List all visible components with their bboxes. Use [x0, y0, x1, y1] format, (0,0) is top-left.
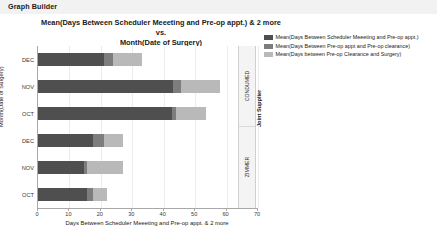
bar-segment-series-3[interactable] — [176, 107, 206, 120]
bar-segment-series-3[interactable] — [104, 134, 123, 147]
chart-title: Mean(Days Between Scheduler Meeeting and… — [36, 18, 286, 48]
bar-segment-series-3[interactable] — [93, 188, 107, 201]
group-panel: CONDUMEDZIMMER — [238, 46, 256, 208]
x-axis-line — [37, 208, 257, 209]
bar-segment-series-2[interactable] — [93, 134, 104, 147]
gridline — [164, 46, 165, 208]
legend-label: Mean(Days between Pre-op Clearance and S… — [276, 51, 402, 58]
bar-segment-series-2[interactable] — [104, 53, 113, 66]
bar-segment-series-1[interactable] — [38, 53, 104, 66]
bar-zimmer-oct[interactable] — [38, 188, 107, 201]
bar-segment-series-1[interactable] — [38, 134, 93, 147]
x-axis-tick-label: 20 — [97, 211, 103, 217]
bar-zimmer-nov[interactable] — [38, 161, 123, 174]
legend-label: Mean(Days Between Scheduler Meeeting and… — [276, 34, 419, 41]
y-axis-label-condumed-oct: OCT — [22, 111, 34, 117]
x-axis-tick-label: 40 — [160, 211, 166, 217]
bar-condumed-oct[interactable] — [38, 107, 206, 120]
gridline — [258, 46, 259, 208]
plot-area — [37, 46, 258, 208]
chart-container: Mean(Days Between Scheduler Meeeting and… — [0, 14, 437, 238]
bar-segment-series-3[interactable] — [87, 161, 123, 174]
chart-legend: Mean(Days Between Scheduler Meeeting and… — [264, 34, 436, 60]
bar-segment-series-2[interactable] — [173, 80, 181, 93]
bar-condumed-nov[interactable] — [38, 80, 220, 93]
gridline — [227, 46, 228, 208]
group-cell-condumed[interactable]: CONDUMED — [239, 46, 255, 127]
y-axis-label-condumed-dec: DEC — [22, 57, 34, 63]
group-label-condumed: CONDUMED — [244, 71, 250, 102]
legend-label: Mean(Days Between Pre-op appt and Pre-op… — [276, 43, 411, 50]
x-axis-tick-label: 70 — [254, 211, 260, 217]
gridline — [101, 46, 102, 208]
x-axis-tick-label: 0 — [35, 211, 38, 217]
gridline — [69, 46, 70, 208]
bar-segment-series-1[interactable] — [38, 188, 87, 201]
plot-inner — [38, 46, 258, 208]
legend-swatch-icon — [264, 35, 273, 40]
group-axis-title: Joint Supplier — [256, 90, 262, 127]
bar-segment-series-1[interactable] — [38, 107, 172, 120]
graph-builder-window: Graph Builder Mean(Days Between Schedule… — [0, 0, 437, 238]
window-titlebar: Graph Builder — [0, 0, 437, 15]
window-title: Graph Builder — [8, 2, 57, 11]
legend-item-2[interactable]: Mean(Days Between Pre-op appt and Pre-op… — [264, 43, 436, 50]
gridline — [195, 46, 196, 208]
x-axis-tick-label: 60 — [222, 211, 228, 217]
bar-segment-series-3[interactable] — [181, 80, 220, 93]
legend-item-1[interactable]: Mean(Days Between Scheduler Meeeting and… — [264, 34, 436, 41]
y-axis-title: Month(Date of Surgery) — [0, 66, 4, 127]
bar-condumed-dec[interactable] — [38, 53, 142, 66]
y-axis-label-zimmer-oct: OCT — [22, 192, 34, 198]
gridline — [132, 46, 133, 208]
x-axis-tick-label: 30 — [128, 211, 134, 217]
x-axis-tick-label: 10 — [65, 211, 71, 217]
x-axis-title: Days Between Scheduler Meeeting and Pre-… — [37, 220, 257, 226]
y-axis-label-zimmer-nov: NOV — [22, 165, 34, 171]
y-axis-label-zimmer-dec: DEC — [22, 138, 34, 144]
chart-title-line-1: Mean(Days Between Scheduler Meeeting and… — [36, 18, 286, 38]
y-axis-label-condumed-nov: NOV — [22, 84, 34, 90]
legend-swatch-icon — [264, 44, 273, 49]
group-cell-zimmer[interactable]: ZIMMER — [239, 127, 255, 207]
legend-item-3[interactable]: Mean(Days between Pre-op Clearance and S… — [264, 51, 436, 58]
bar-zimmer-dec[interactable] — [38, 134, 123, 147]
bar-segment-series-3[interactable] — [113, 53, 141, 66]
bar-segment-series-1[interactable] — [38, 161, 84, 174]
x-axis-tick-label: 50 — [191, 211, 197, 217]
bar-segment-series-1[interactable] — [38, 80, 173, 93]
legend-swatch-icon — [264, 52, 273, 57]
group-label-zimmer: ZIMMER — [244, 157, 250, 177]
